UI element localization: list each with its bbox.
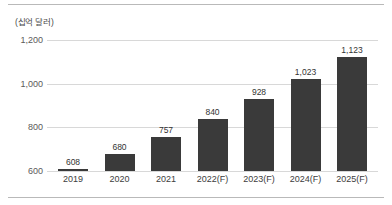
bar	[198, 119, 228, 171]
chart-figure: (십억 달러) 6008001,0001,2006082019680202075…	[0, 0, 392, 205]
bar-value-label: 757	[143, 125, 189, 135]
bar-value-label: 680	[97, 142, 143, 152]
bar-value-label: 840	[190, 107, 236, 117]
bar	[337, 57, 367, 171]
bar	[105, 154, 135, 171]
x-axis-tick-label: 2025(F)	[325, 174, 379, 184]
plot-area: 6008001,0001,200608201968020207572021840…	[0, 0, 392, 205]
gridline	[47, 40, 378, 41]
bar	[58, 169, 88, 171]
gridline	[47, 171, 378, 172]
bar	[244, 99, 274, 171]
y-axis-tick-label: 1,000	[0, 79, 43, 89]
gridline	[47, 84, 378, 85]
bar-value-label: 608	[50, 157, 96, 167]
bar	[151, 137, 181, 171]
bar-value-label: 928	[236, 87, 282, 97]
y-axis-tick-label: 800	[0, 122, 43, 132]
y-axis-tick-label: 600	[0, 166, 43, 176]
bar	[291, 79, 321, 171]
bar-value-label: 1,023	[283, 67, 329, 77]
y-axis-tick-label: 1,200	[0, 35, 43, 45]
bar-value-label: 1,123	[329, 45, 375, 55]
